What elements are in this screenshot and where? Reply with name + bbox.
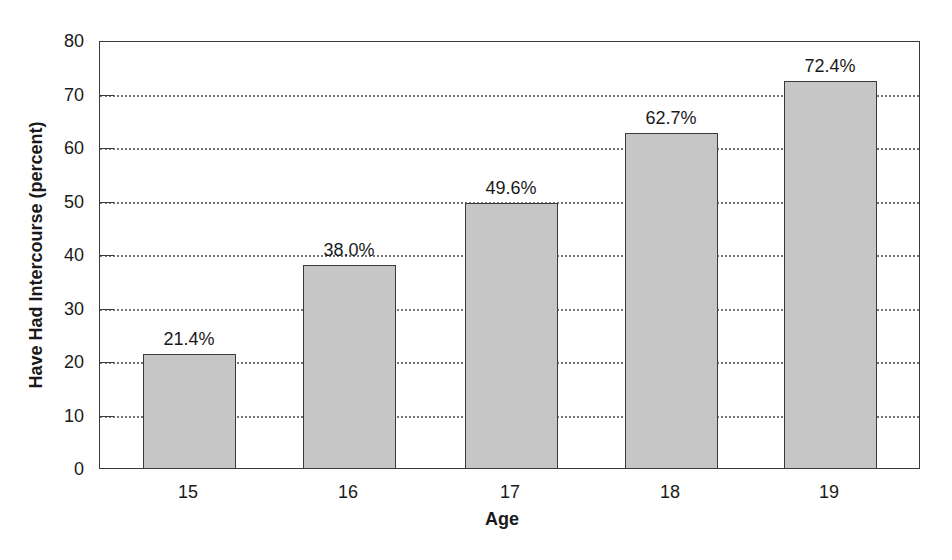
bar-value-label: 38.0% <box>289 240 409 261</box>
y-tick-mark <box>100 148 114 149</box>
y-tick-label: 0 <box>44 459 84 479</box>
y-tick-mark <box>100 416 114 417</box>
y-tick-label: 60 <box>44 138 84 158</box>
x-axis-title: Age <box>452 509 552 530</box>
y-tick-mark <box>100 362 114 363</box>
bar-age-19 <box>784 81 877 468</box>
bar-age-15 <box>143 354 236 468</box>
x-tick-label: 15 <box>148 482 228 503</box>
bar-value-label: 62.7% <box>611 108 731 129</box>
bar-age-16 <box>303 265 396 468</box>
bar-value-label: 21.4% <box>129 329 249 350</box>
bar-age-18 <box>625 133 718 468</box>
y-tick-mark <box>100 309 114 310</box>
y-tick-mark <box>100 255 114 256</box>
y-tick-mark <box>100 95 114 96</box>
x-tick-label: 18 <box>630 482 710 503</box>
x-tick-label: 16 <box>308 482 388 503</box>
y-tick-label: 50 <box>44 192 84 212</box>
bar-age-17 <box>465 203 558 468</box>
bar-value-label: 49.6% <box>451 178 571 199</box>
y-tick-mark <box>100 202 114 203</box>
bar-value-label: 72.4% <box>770 56 890 77</box>
y-tick-label: 80 <box>44 31 84 51</box>
y-tick-label: 30 <box>44 299 84 319</box>
plot-area: 21.4%38.0%49.6%62.7%72.4% <box>99 41 920 469</box>
x-tick-label: 17 <box>470 482 550 503</box>
y-tick-label: 40 <box>44 245 84 265</box>
y-tick-label: 10 <box>44 406 84 426</box>
x-tick-label: 19 <box>789 482 869 503</box>
y-tick-label: 20 <box>44 352 84 372</box>
y-tick-label: 70 <box>44 85 84 105</box>
